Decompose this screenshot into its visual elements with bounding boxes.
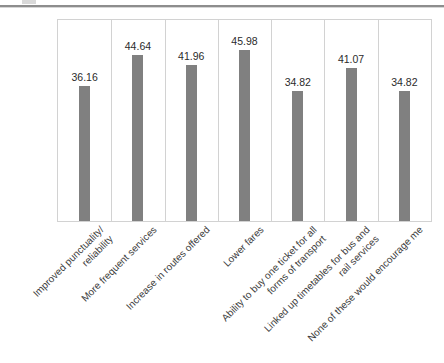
bar[interactable] <box>132 55 143 221</box>
bar-group: 36.16 <box>58 20 111 221</box>
bar-group: 45.98 <box>218 20 271 221</box>
page-remnant-mark <box>22 0 36 4</box>
bar-value-label: 34.82 <box>268 76 328 88</box>
bar-value-label: 34.82 <box>374 76 434 88</box>
bar[interactable] <box>239 50 250 221</box>
bar-group: 41.96 <box>165 20 218 221</box>
bar-group: 44.64 <box>111 20 164 221</box>
bar-chart-figure: 36.1644.6441.9645.9834.8241.0734.82 Impr… <box>0 8 444 363</box>
bar[interactable] <box>79 86 90 221</box>
bar-value-label: 45.98 <box>214 35 274 47</box>
bar-value-label: 41.07 <box>321 53 381 65</box>
bar-value-label: 44.64 <box>108 40 168 52</box>
bar-group: 34.82 <box>271 20 324 221</box>
bar-group: 34.82 <box>378 20 431 221</box>
plot-area: 36.1644.6441.9645.9834.8241.0734.82 <box>58 20 431 221</box>
bar[interactable] <box>399 91 410 221</box>
bar[interactable] <box>186 65 197 221</box>
bar[interactable] <box>346 68 357 221</box>
bar-value-label: 36.16 <box>55 71 115 83</box>
bar-group: 41.07 <box>324 20 377 221</box>
bar[interactable] <box>292 91 303 221</box>
plot-frame: 36.1644.6441.9645.9834.8241.0734.82 <box>57 19 432 222</box>
category-axis-labels: Improved punctuality/ reliabilityMore fr… <box>57 224 432 363</box>
bar-value-label: 41.96 <box>161 50 221 62</box>
